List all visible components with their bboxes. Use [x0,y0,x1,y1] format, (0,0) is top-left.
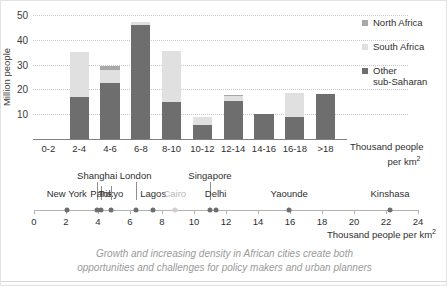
x-axis-tick-label: 8-10 [162,143,181,154]
scale-tick-label: 22 [381,216,392,227]
figure-bottom-rule [1,281,447,285]
scale-tick [258,210,259,214]
bar-segment-south [100,70,119,83]
city-dot[interactable] [172,208,177,213]
city-dot[interactable] [388,208,393,213]
bar-group [64,15,95,139]
figure-caption: Growth and increasing density in African… [1,247,447,275]
figure-top-rule [1,1,447,6]
scale-tick [226,210,227,214]
bar-group [33,15,64,139]
bar-segment-other [100,83,119,139]
bar-segment-south [285,93,304,117]
x-axis-tick-label: 0-2 [42,143,56,154]
bar-segment-other [254,114,273,139]
scale-tick [34,210,35,214]
city-label: Shanghai [77,170,117,181]
city-dot[interactable] [108,208,113,213]
bar-group [125,15,156,139]
city-connector-tick [111,186,112,200]
bar-segment-south [193,117,212,125]
city-label: London [120,170,152,181]
x-axis-tick-label: 4-6 [103,143,117,154]
city-scale-unit-label: Thousand people per km2 [327,228,436,240]
scale-tick-label: 0 [31,216,36,227]
scale-tick-label: 8 [159,216,164,227]
city-label: Delhi [205,188,227,199]
scale-tick-label: 10 [189,216,200,227]
city-connector-tick [136,182,137,200]
scale-tick-label: 4 [95,216,100,227]
bar-segment-south [70,52,89,97]
city-label: Lagos [140,188,166,199]
bar-segment-other [131,25,150,139]
x-axis-unit-line2: per km2 [350,153,446,168]
y-axis-tick-label: 30 [17,59,28,70]
legend-item-north-africa: North Africa [362,17,447,28]
x-axis-tick-label: 6-8 [134,143,148,154]
city-dot[interactable] [287,208,292,213]
legend-item-south-africa: South Africa [362,41,447,52]
city-label: Singapore [188,170,231,181]
legend-label: North Africa [373,17,447,28]
y-axis-tick-label: 20 [17,84,28,95]
y-axis-title: Million people [1,48,12,106]
bar-segment-north [224,95,243,96]
scale-tick [162,210,163,214]
chart-figure: North Africa South Africa Other sub-Saha… [0,0,447,286]
bar-segment-south [162,51,181,102]
legend-swatch-icon [362,20,368,26]
x-axis-tick-label: >18 [318,143,334,154]
city-dot[interactable] [208,208,213,213]
city-label: New York [47,188,87,199]
legend-item-other-sub-saharan: Other sub-Saharan [362,65,447,87]
bar-segment-other [224,101,243,139]
plot-area: Million people 5040302010 0-22-44-66-88-… [33,15,341,139]
x-axis-tick-label: 10-12 [190,143,214,154]
scale-tick-label: 2 [63,216,68,227]
legend-label: South Africa [373,41,447,52]
legend-label-line2: sub-Saharan [373,76,447,87]
scale-tick-label: 24 [413,216,424,227]
legend-swatch-icon [362,68,368,74]
scale-tick-label: 6 [127,216,132,227]
city-label: Yaounde [271,188,308,199]
bar-segment-other [70,97,89,139]
bar-group [310,15,341,139]
legend-label: Other [373,65,447,76]
x-axis-line [33,139,347,140]
city-dot[interactable] [64,208,69,213]
city-dot[interactable] [133,208,138,213]
scale-tick [354,210,355,214]
x-axis-unit-label: Thousand people per km2 [350,141,446,168]
scale-tick-label: 16 [285,216,296,227]
scale-tick [194,210,195,214]
x-axis-tick-label: 14-16 [252,143,276,154]
y-axis-tick-label: 50 [17,10,28,21]
chart-legend: North Africa South Africa Other sub-Saha… [362,17,447,100]
x-axis-tick-label: 2-4 [72,143,86,154]
x-axis-tick-label: 16-18 [283,143,307,154]
bar-segment-south [224,96,243,101]
bar-segment-other [193,125,212,139]
bar-segment-south [131,22,150,25]
bar-segment-north [100,66,119,69]
bar-segment-other [285,117,304,139]
bar-group [95,15,126,139]
scale-tick [130,210,131,214]
legend-swatch-icon [362,44,368,50]
city-dot[interactable] [213,208,218,213]
bar-group [156,15,187,139]
caption-line-2: opportunities and challenges for policy … [1,261,447,275]
city-dot[interactable] [99,208,104,213]
y-axis-tick-label: 40 [17,34,28,45]
x-axis-tick-label: 12-14 [221,143,245,154]
bar-group [187,15,218,139]
city-dot[interactable] [151,208,156,213]
x-axis-unit-line1: Thousand people [350,141,423,152]
city-label: Cairo [163,188,186,199]
y-axis-tick-label: 10 [17,109,28,120]
scale-tick-label: 20 [349,216,360,227]
scale-tick [322,210,323,214]
scale-tick-label: 14 [253,216,264,227]
